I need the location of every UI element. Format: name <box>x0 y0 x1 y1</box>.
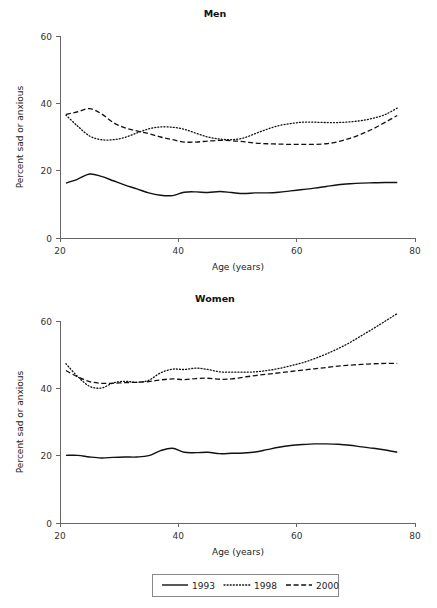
x-tick-label-men-60: 60 <box>291 246 303 256</box>
x-axis-title-men: Age (years) <box>212 262 264 272</box>
x-tick-label-men-80: 80 <box>409 246 421 256</box>
axes-women <box>60 321 415 523</box>
x-tick-label-women-40: 40 <box>173 531 185 541</box>
x-tick-label-women-60: 60 <box>291 531 303 541</box>
y-tick-label-men-20: 20 <box>41 166 53 176</box>
y-axis-title-men: Percent sad or anxious <box>15 85 25 188</box>
x-tick-label-men-40: 40 <box>173 246 185 256</box>
legend-label-1993: 1993 <box>192 581 215 591</box>
x-tick-label-men-20: 20 <box>54 246 66 256</box>
y-tick-label-men-40: 40 <box>41 99 53 109</box>
chart-title-women: Women <box>195 293 235 304</box>
chart-title-men: Men <box>204 8 227 19</box>
figure-root: Men 020406020406080 Age (years) Percent … <box>0 0 437 608</box>
y-tick-label-women-60: 60 <box>41 317 53 327</box>
y-axis-title-women: Percent sad or anxious <box>15 370 25 473</box>
chart-panel-women: Women 020406020406080 Age (years) Percen… <box>0 285 437 570</box>
y-tick-label-men-0: 0 <box>46 234 52 244</box>
chart-panel-men: Men 020406020406080 Age (years) Percent … <box>0 0 437 285</box>
legend-svg: 199319982000 <box>0 570 437 608</box>
x-tick-label-women-20: 20 <box>54 531 66 541</box>
chart-svg-men: Men 020406020406080 Age (years) Percent … <box>0 0 437 285</box>
series-path-women-1993 <box>66 444 397 458</box>
legend-label-2000: 2000 <box>316 581 339 591</box>
x-axis-title-women: Age (years) <box>212 547 264 557</box>
y-tick-label-women-20: 20 <box>41 451 53 461</box>
series-group-men <box>66 108 397 196</box>
chart-svg-women: Women 020406020406080 Age (years) Percen… <box>0 285 437 570</box>
series-path-women-1998 <box>66 314 397 389</box>
axes-men <box>60 36 415 238</box>
y-tick-label-men-60: 60 <box>41 32 53 42</box>
ticks-women: 020406020406080 <box>41 317 421 542</box>
x-tick-label-women-80: 80 <box>409 531 421 541</box>
legend-label-1998: 1998 <box>254 581 277 591</box>
ticks-men: 020406020406080 <box>41 32 421 257</box>
series-path-men-1993 <box>66 174 397 196</box>
series-group-women <box>66 314 397 458</box>
chart-legend: 199319982000 <box>0 570 437 608</box>
series-path-women-2000 <box>66 363 397 383</box>
y-tick-label-women-40: 40 <box>41 384 53 394</box>
legend-entries: 199319982000 <box>162 581 339 591</box>
y-tick-label-women-0: 0 <box>46 519 52 529</box>
